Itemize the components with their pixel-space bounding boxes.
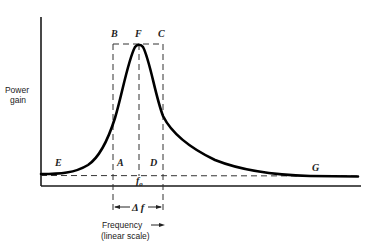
label-a: A [116,157,124,168]
y-axis-label-line2: gain [10,95,26,105]
label-b: B [110,28,118,39]
label-c: C [158,28,165,39]
label-d: D [149,157,157,168]
power-gain-curve [41,45,358,177]
center-frequency-subscript: o [139,180,143,188]
label-g: G [312,162,320,173]
y-axis-label-line1: Power [5,85,29,95]
power-gain-diagram: B F C E A D G fo Δ f Power gain Frequenc… [0,0,373,251]
x-axis-arrow-icon [151,223,165,227]
label-e: E [54,157,62,168]
x-axis-label-line1: Frequency [102,220,143,230]
x-axis-label-line2: (linear scale) [101,231,150,241]
bandwidth-label: Δ f [131,202,146,213]
label-f: F [134,28,142,39]
